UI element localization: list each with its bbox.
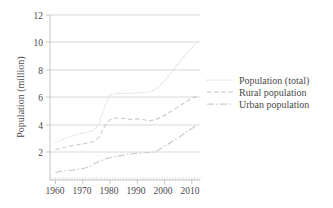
legend-label-urban-population: Urban population: [239, 99, 309, 110]
x-tick-label: 1970: [73, 186, 92, 196]
gridlines: [50, 15, 200, 152]
x-tick-label: 1990: [127, 186, 146, 196]
chart-figure: 12 10 8 6 4 2 1960 1970 1980 1990 2000 2…: [0, 0, 333, 208]
x-tick-label: 1960: [46, 186, 65, 196]
data-series: [55, 42, 197, 173]
y-tick-label: 10: [34, 38, 44, 48]
x-tick-label: 2000: [154, 186, 173, 196]
series-line-urban-population: [55, 125, 197, 172]
y-tick-label: 2: [38, 148, 43, 158]
x-tick-labels: 1960 1970 1980 1990 2000 2010: [46, 186, 200, 196]
x-tick-label: 2010: [181, 186, 200, 196]
y-axis-ticks: [46, 15, 50, 152]
series-line-rural-population: [55, 96, 197, 150]
population-line-chart: 12 10 8 6 4 2 1960 1970 1980 1990 2000 2…: [0, 0, 333, 208]
legend-label-rural-population: Rural population: [239, 87, 307, 98]
x-tick-label: 1980: [100, 186, 119, 196]
y-tick-label: 6: [38, 93, 43, 103]
y-tick-label: 12: [34, 11, 44, 21]
y-tick-label: 8: [38, 66, 43, 76]
series-line-population-total: [55, 42, 197, 142]
chart-legend: Population (total) Rural population Urba…: [207, 75, 309, 110]
y-tick-label: 4: [38, 121, 43, 131]
legend-label-population-total: Population (total): [239, 75, 309, 87]
x-axis-major-ticks: [55, 180, 191, 184]
y-tick-labels: 12 10 8 6 4 2: [34, 11, 44, 158]
y-axis-title: Population (million): [15, 56, 27, 137]
x-axis-minor-ticks: [50, 177, 200, 180]
